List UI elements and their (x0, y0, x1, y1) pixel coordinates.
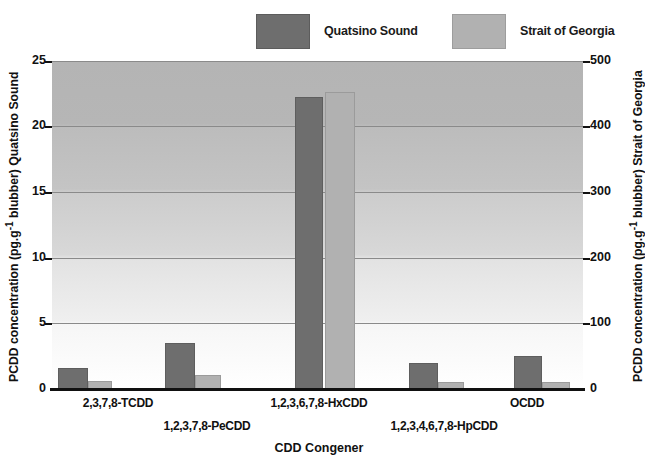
gridline-25 (52, 61, 583, 62)
bar-quatsino-pecdd[interactable] (165, 343, 195, 389)
xlabel-pecdd: 1,2,3,7,8-PeCDD (164, 419, 251, 433)
tickmark-left-20 (45, 126, 52, 128)
y-axis-right-title-superscript: -1 (628, 221, 639, 230)
x-axis-baseline (50, 388, 585, 391)
legend-swatch-light-gray-icon (452, 14, 506, 49)
y-axis-right-title-prefix: PCDD concentration (pg.g (631, 230, 645, 382)
y-axis-left-title-prefix: PCDD concentration (pg.g (7, 230, 21, 382)
bar-georgia-pecdd[interactable] (195, 375, 221, 389)
legend-label-strait-of-georgia: Strait of Georgia (520, 24, 615, 38)
ytick-left-25: 25 (6, 53, 46, 67)
tickmark-right-100 (583, 323, 590, 325)
tickmark-right-200 (583, 258, 590, 260)
ytick-right-0: 0 (590, 381, 636, 395)
bar-quatsino-tcdd[interactable] (58, 368, 88, 389)
y-axis-left-title-superscript: -1 (4, 221, 15, 230)
ytick-right-500: 500 (590, 53, 636, 67)
y-axis-left-title-suffix: blubber) Quatsino Sound (7, 72, 21, 222)
chart-legend: Quatsino Sound Strait of Georgia (0, 0, 638, 55)
legend-item-strait-of-georgia[interactable]: Strait of Georgia (452, 14, 615, 48)
bar-quatsino-ocdd[interactable] (514, 356, 542, 389)
plot-area (52, 61, 583, 389)
tickmark-left-15 (45, 192, 52, 194)
tickmark-right-300 (583, 192, 590, 194)
xlabel-ocdd: OCDD (510, 396, 544, 410)
bar-georgia-hxcdd[interactable] (325, 92, 355, 389)
y-axis-right-title-suffix: blubber) Strait of Georgia (631, 70, 645, 221)
tickmark-left-25 (45, 61, 52, 63)
y-axis-right-title: PCDD concentration (pg.g-1 blubber) Stra… (628, 70, 645, 382)
y-axis-left-title: PCDD concentration (pg.g-1 blubber) Quat… (4, 72, 21, 382)
tickmark-left-5 (45, 323, 52, 325)
bar-quatsino-hpcdd[interactable] (409, 363, 438, 389)
tickmark-left-10 (45, 258, 52, 260)
x-axis-title: CDD Congener (275, 441, 364, 455)
legend-swatch-dark-gray-icon (256, 14, 310, 49)
xlabel-hxcdd: 1,2,3,6,7,8-HxCDD (271, 396, 368, 410)
xlabel-hpcdd: 1,2,3,4,6,7,8-HpCDD (390, 419, 497, 433)
legend-item-quatsino-sound[interactable]: Quatsino Sound (256, 14, 418, 48)
tickmark-right-400 (583, 126, 590, 128)
xlabel-tcdd: 2,3,7,8-TCDD (83, 396, 153, 410)
tickmark-right-500 (583, 61, 590, 63)
bar-quatsino-hxcdd[interactable] (295, 97, 323, 389)
ytick-left-0: 0 (6, 381, 46, 395)
legend-label-quatsino-sound: Quatsino Sound (324, 24, 418, 38)
